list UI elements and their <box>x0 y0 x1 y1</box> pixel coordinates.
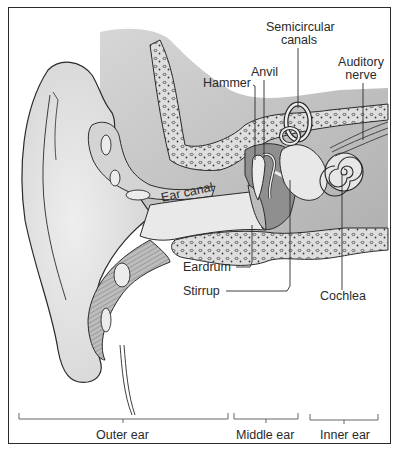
cartilage-lobe <box>101 308 111 332</box>
section-label-inner-ear: Inner ear <box>320 428 370 442</box>
cartilage-lobe <box>114 263 130 287</box>
bracket-middle <box>234 413 298 423</box>
label-eardrum: Eardrum <box>183 261 231 274</box>
label-auditory-nerve: Auditory nerve <box>334 56 388 82</box>
label-cochlea: Cochlea <box>320 290 366 303</box>
cartilage-lobe <box>101 135 111 155</box>
label-anvil: Anvil <box>251 66 278 79</box>
section-label-middle-ear: Middle ear <box>236 428 294 442</box>
label-hammer: Hammer <box>203 77 251 90</box>
label-semicircular-canals: Semicircular canals <box>266 21 332 47</box>
neck-line <box>124 345 135 415</box>
label-stirrup: Stirrup <box>183 285 220 298</box>
section-brackets <box>19 413 378 424</box>
neck-line <box>120 345 132 415</box>
cartilage-lobe <box>110 170 120 186</box>
bracket-inner <box>310 414 378 424</box>
label-semicircular-line2: canals <box>266 34 332 47</box>
label-auditory-line2: nerve <box>334 69 388 82</box>
bracket-outer <box>19 413 228 423</box>
cartilage-lobe <box>126 190 150 200</box>
section-label-outer-ear: Outer ear <box>96 428 149 442</box>
